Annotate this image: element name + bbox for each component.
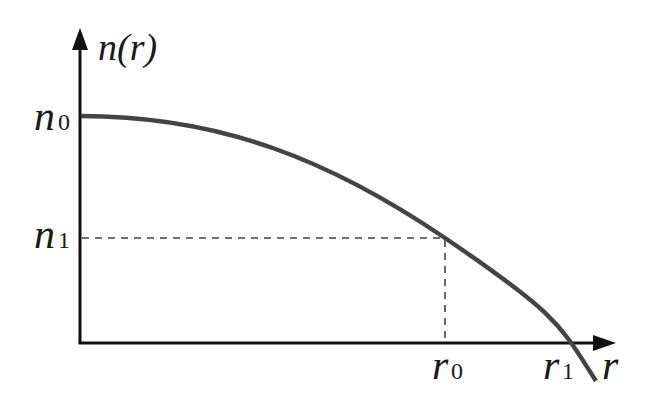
- y-axis-label: n(r): [98, 26, 157, 69]
- n-r-curve: [81, 116, 596, 381]
- svg-text:0: 0: [58, 109, 70, 135]
- tick-label-r1: r 1: [543, 342, 574, 388]
- tick-label-n1: n 1: [34, 211, 70, 257]
- svg-text:1: 1: [58, 227, 70, 253]
- svg-text:r: r: [543, 342, 560, 388]
- x-axis-label: r: [602, 342, 619, 388]
- svg-text:1: 1: [562, 358, 574, 384]
- svg-text:0: 0: [451, 358, 463, 384]
- tick-label-n0: n 0: [34, 93, 70, 139]
- y-axis-arrow-icon: [72, 28, 88, 50]
- svg-text:r: r: [432, 342, 449, 388]
- svg-text:n: n: [34, 211, 55, 257]
- tick-label-r0: r 0: [432, 342, 463, 388]
- svg-text:n: n: [34, 93, 55, 139]
- refractive-index-profile-diagram: n(r) n 0 n 1 r 0 r 1 r: [0, 0, 654, 401]
- diagram-svg: n(r) n 0 n 1 r 0 r 1 r: [0, 0, 654, 401]
